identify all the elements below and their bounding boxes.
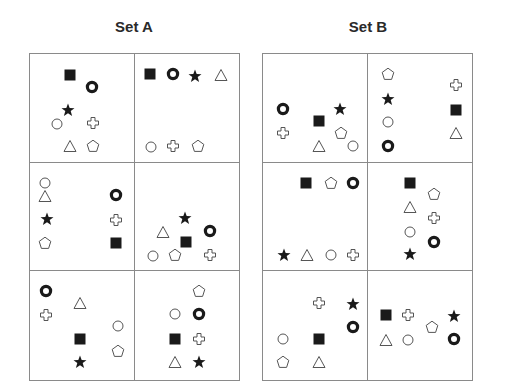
triangle-icon: [63, 139, 77, 153]
filled-square-icon: [109, 236, 123, 250]
ring-icon: [276, 102, 290, 116]
star-icon: [73, 355, 87, 369]
ring-icon: [109, 188, 123, 202]
circle-icon: [403, 225, 417, 239]
pentagon-icon: [425, 320, 439, 334]
filled-square-icon: [73, 332, 87, 346]
panel-b-2: [368, 54, 473, 163]
panel-b-5: [263, 271, 368, 380]
cross-icon: [109, 213, 123, 227]
star-icon: [333, 102, 347, 116]
ring-icon: [192, 307, 206, 321]
panel-b-4: [368, 163, 473, 272]
ring-icon: [203, 224, 217, 238]
pentagon-icon: [111, 344, 125, 358]
star-icon: [61, 103, 75, 117]
circle-icon: [111, 319, 125, 333]
triangle-icon: [403, 200, 417, 214]
panel-b-3: [263, 163, 368, 272]
pentagon-icon: [86, 139, 100, 153]
set-b-grid: [262, 53, 473, 381]
star-icon: [277, 248, 291, 262]
star-icon: [40, 212, 54, 226]
ring-icon: [447, 332, 461, 346]
star-icon: [447, 309, 461, 323]
cross-icon: [276, 126, 290, 140]
panel-b-1: [263, 54, 368, 163]
triangle-icon: [300, 248, 314, 262]
filled-square-icon: [449, 103, 463, 117]
triangle-icon: [379, 333, 393, 347]
cross-icon: [39, 308, 53, 322]
circle-icon: [50, 117, 64, 131]
set-a-title: Set A: [74, 18, 194, 35]
ring-icon: [346, 176, 360, 190]
star-icon: [403, 247, 417, 261]
pentagon-icon: [427, 187, 441, 201]
filled-square-icon: [312, 114, 326, 128]
triangle-icon: [156, 225, 170, 239]
star-icon: [192, 355, 206, 369]
filled-square-icon: [143, 67, 157, 81]
cross-icon: [192, 332, 206, 346]
panel-a-4: [135, 163, 240, 272]
pentagon-icon: [191, 139, 205, 153]
cross-icon: [427, 211, 441, 225]
filled-square-icon: [379, 308, 393, 322]
triangle-icon: [449, 126, 463, 140]
star-icon: [188, 69, 202, 83]
star-icon: [381, 92, 395, 106]
star-icon: [346, 297, 360, 311]
triangle-icon: [168, 355, 182, 369]
panel-a-1: [30, 54, 135, 163]
pentagon-icon: [381, 67, 395, 81]
triangle-icon: [214, 68, 228, 82]
panel-b-6: [368, 271, 473, 380]
filled-square-icon: [299, 176, 313, 190]
filled-square-icon: [312, 332, 326, 346]
triangle-icon: [38, 189, 52, 203]
triangle-icon: [73, 296, 87, 310]
pentagon-icon: [334, 126, 348, 140]
pentagon-icon: [324, 176, 338, 190]
cross-icon: [312, 296, 326, 310]
panel-a-2: [135, 54, 240, 163]
circle-icon: [324, 248, 338, 262]
ring-icon: [381, 139, 395, 153]
pentagon-icon: [168, 248, 182, 262]
ring-icon: [85, 80, 99, 94]
cross-icon: [346, 248, 360, 262]
cross-icon: [166, 139, 180, 153]
filled-square-icon: [179, 235, 193, 249]
pentagon-icon: [192, 284, 206, 298]
triangle-icon: [312, 139, 326, 153]
circle-icon: [144, 140, 158, 154]
cross-icon: [401, 308, 415, 322]
triangle-icon: [312, 355, 326, 369]
panel-a-3: [30, 163, 135, 272]
filled-square-icon: [168, 332, 182, 346]
cross-icon: [449, 78, 463, 92]
panel-a-6: [135, 271, 240, 380]
filled-square-icon: [63, 68, 77, 82]
filled-square-icon: [403, 176, 417, 190]
set-a-grid: [29, 53, 240, 381]
circle-icon: [168, 307, 182, 321]
cross-icon: [86, 116, 100, 130]
pentagon-icon: [38, 236, 52, 250]
ring-icon: [346, 320, 360, 334]
ring-icon: [39, 284, 53, 298]
ring-icon: [166, 67, 180, 81]
circle-icon: [381, 115, 395, 129]
cross-icon: [203, 248, 217, 262]
circle-icon: [276, 332, 290, 346]
star-icon: [178, 211, 192, 225]
circle-icon: [401, 333, 415, 347]
circle-icon: [38, 176, 52, 190]
set-b-title: Set B: [308, 18, 428, 35]
circle-icon: [346, 139, 360, 153]
ring-icon: [427, 235, 441, 249]
pentagon-icon: [276, 355, 290, 369]
panel-a-5: [30, 271, 135, 380]
circle-icon: [146, 249, 160, 263]
